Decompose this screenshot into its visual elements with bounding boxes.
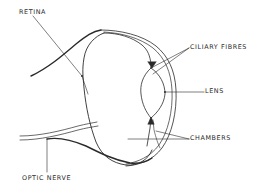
sclera-outer-top — [101, 30, 176, 166]
eye-diagram: RETINA CILIARY FIBRES LENS CHAMBERS OPTI… — [0, 0, 266, 189]
label-chambers: CHAMBERS — [190, 135, 231, 141]
leader-retina-dot — [81, 75, 83, 77]
label-ciliary-fibres: CILIARY FIBRES — [190, 44, 247, 50]
ciliary-body-top — [148, 62, 156, 68]
optic-nerve-upper — [20, 122, 97, 136]
lens — [141, 68, 165, 118]
eye-drawing — [0, 0, 266, 189]
sclera-bottom — [47, 138, 152, 163]
label-lens: LENS — [205, 88, 224, 94]
label-optic-nerve: OPTIC NERVE — [22, 175, 71, 181]
leader-chambers-2 — [156, 131, 189, 139]
sclera-outer-upper — [31, 30, 101, 76]
leader-ciliary-2 — [153, 48, 189, 74]
retina-globe-upper — [104, 33, 151, 64]
label-retina: RETINA — [19, 9, 46, 15]
leader-lens-dot — [164, 91, 166, 93]
leader-retina — [33, 16, 88, 94]
